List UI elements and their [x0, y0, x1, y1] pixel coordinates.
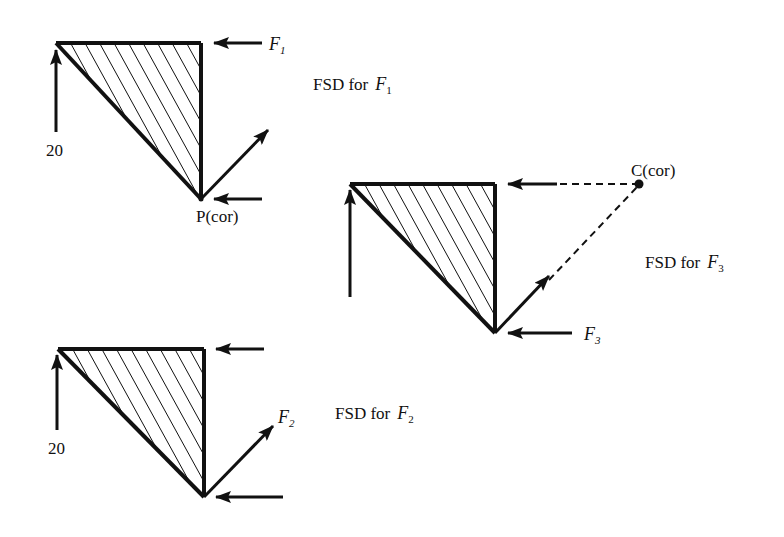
- triangle-diagonal-edge: [350, 184, 495, 333]
- hatch-line: [452, 184, 496, 263]
- hatched-triangle: [58, 349, 204, 497]
- triangle-diagonal-edge: [56, 43, 201, 199]
- bottom-force-label: F3: [583, 324, 601, 346]
- hatch-line: [175, 349, 204, 402]
- diagram-f1: 20 F1 P(cor) FSD forF1: [46, 34, 392, 226]
- point-c-label: C(cor): [631, 161, 675, 180]
- top-force-label: F1: [268, 34, 286, 56]
- hatch-line: [143, 43, 201, 148]
- diag-force-arrow: [201, 130, 268, 199]
- diag-force-label: F2: [277, 407, 295, 429]
- hatch-line: [189, 349, 204, 376]
- diag-force-arrow: [495, 276, 549, 333]
- left-force-value: 20: [48, 439, 65, 458]
- hatch-line: [481, 184, 496, 210]
- hatch-line: [158, 43, 202, 122]
- hatch-line: [129, 43, 202, 175]
- hatch-line: [437, 184, 495, 289]
- caption-f3: FSD forF3: [645, 252, 724, 274]
- diagram-f3: C(cor) F3 FSD forF3: [350, 161, 724, 346]
- hatched-triangle: [56, 43, 201, 199]
- caption-f2: FSD forF2: [335, 403, 414, 425]
- hatch-lines: [73, 349, 204, 483]
- caption-f1: FSD forF1: [313, 74, 392, 96]
- hatch-line: [466, 184, 495, 237]
- hatch-line: [172, 43, 201, 96]
- hatch-line: [187, 43, 202, 69]
- diag-line-of-action: [549, 186, 638, 280]
- hatch-line: [146, 349, 204, 455]
- hatch-line: [116, 349, 190, 483]
- fsd-figure: 20 F1 P(cor) FSD forF1 C(cor) F3 FSD for…: [0, 0, 784, 537]
- diag-force-arrow: [204, 426, 273, 497]
- diagram-f2: 20 F2 FSD forF2: [48, 349, 414, 497]
- hatch-lines: [365, 184, 496, 321]
- hatched-triangle: [350, 184, 495, 333]
- hatch-lines: [71, 43, 202, 196]
- point-p-label: P(cor): [196, 207, 238, 226]
- hatch-line: [160, 349, 204, 429]
- triangle-diagonal-edge: [58, 349, 204, 497]
- point-c: [635, 180, 644, 189]
- point-p: [199, 197, 204, 202]
- left-force-value: 20: [46, 141, 63, 160]
